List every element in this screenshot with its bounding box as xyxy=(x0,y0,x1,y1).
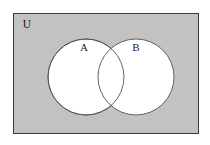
venn-diagram-canvas: U A B xyxy=(0,0,210,145)
set-b-label: B xyxy=(132,41,139,53)
set-a-label: A xyxy=(80,41,88,53)
universal-set-label: U xyxy=(23,18,32,30)
venn-diagram-figure: U A B xyxy=(0,0,210,145)
